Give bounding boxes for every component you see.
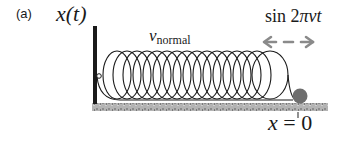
spring-diagram: [0, 0, 348, 145]
oscillation-arrow: [264, 37, 313, 47]
attach-point: [97, 74, 102, 79]
spring-coil: [97, 51, 296, 100]
wall: [93, 26, 97, 104]
ground-bar: [92, 103, 328, 111]
driven-ball: [293, 89, 308, 104]
